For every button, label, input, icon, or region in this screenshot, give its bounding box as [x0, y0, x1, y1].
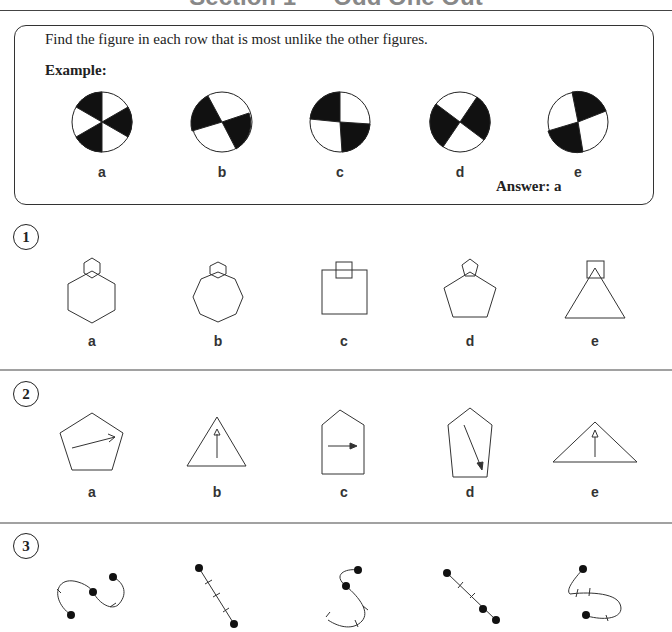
example-figure-b [191, 92, 252, 152]
example-figure-a [72, 92, 132, 152]
example-figure-d [430, 92, 490, 152]
q2-option-b[interactable]: b [202, 484, 232, 500]
q1-figures [68, 258, 625, 323]
example-option-d[interactable]: d [445, 164, 475, 180]
question-number-1: 1 [13, 224, 39, 250]
example-option-a[interactable]: a [87, 164, 117, 180]
q3-figures [57, 568, 621, 627]
q1-option-d[interactable]: d [455, 333, 485, 349]
question-number-2: 2 [13, 381, 39, 407]
q1-option-e[interactable]: e [580, 333, 610, 349]
example-figure-c [310, 92, 370, 152]
q2-option-d[interactable]: d [455, 484, 485, 500]
q1-option-c[interactable]: c [329, 333, 359, 349]
q2-figures [60, 408, 637, 477]
question-number-3: 3 [13, 533, 39, 559]
q2-option-a[interactable]: a [77, 484, 107, 500]
example-option-b[interactable]: b [207, 164, 237, 180]
example-option-c[interactable]: c [325, 164, 355, 180]
figures-canvas [0, 0, 672, 632]
q3-dots [67, 564, 590, 628]
q2-option-c[interactable]: c [329, 484, 359, 500]
example-figure-e [548, 91, 608, 152]
q2-option-e[interactable]: e [580, 484, 610, 500]
example-option-e[interactable]: e [563, 164, 593, 180]
example-answer: Answer: a [496, 178, 561, 195]
q1-option-a[interactable]: a [77, 333, 107, 349]
q1-option-b[interactable]: b [203, 333, 233, 349]
